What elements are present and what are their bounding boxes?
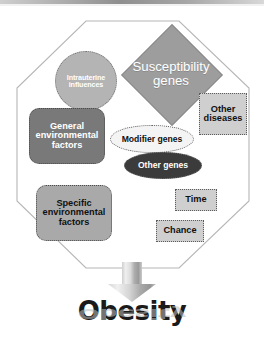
- node-chance[interactable]: Chance: [156, 220, 204, 242]
- node-label-line3: factors: [36, 141, 99, 150]
- figure-canvas: Intrauterine influences Susceptibility g…: [0, 0, 264, 344]
- node-label-line2: genes: [153, 73, 189, 88]
- node-label-line3: factors: [43, 218, 106, 227]
- node-label-line2: diseases: [204, 114, 243, 123]
- node-label-line1: Modifier genes: [122, 135, 183, 144]
- node-label-line2: influences: [67, 81, 105, 88]
- node-label-line1: Other genes: [138, 161, 188, 170]
- node-label-line1: Chance: [163, 226, 196, 235]
- outcome-label-reflection: Obesity: [0, 310, 264, 322]
- node-other-diseases[interactable]: Other diseases: [199, 93, 247, 135]
- node-label-line1: Time: [185, 195, 206, 204]
- node-specific-environmental-factors[interactable]: Specific environmental factors: [36, 185, 112, 241]
- node-intrauterine-influences[interactable]: Intrauterine influences: [55, 51, 117, 111]
- node-label-line1: Susceptibility: [133, 59, 210, 74]
- node-time[interactable]: Time: [175, 189, 217, 211]
- node-other-genes[interactable]: Other genes: [124, 152, 202, 179]
- node-modifier-genes[interactable]: Modifier genes: [110, 125, 194, 153]
- node-general-environmental-factors[interactable]: General environmental factors: [29, 108, 105, 164]
- arrow-shaft: [122, 262, 142, 286]
